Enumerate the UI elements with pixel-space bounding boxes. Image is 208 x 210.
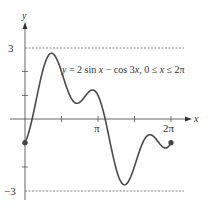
equation-part: − cos 3 (103, 64, 134, 75)
equation-part: , 0 ≤ (139, 64, 160, 75)
equation-part: = 2 sin (66, 64, 98, 75)
x-tick-label-2pi: 2π (163, 122, 175, 134)
y-max-label: 3 (8, 42, 14, 54)
y-min-label: −3 (4, 185, 16, 197)
y-axis-label: y (21, 10, 27, 21)
function-graph: y x 3 −3 π 2π y = 2 sin x − cos 3x, 0 ≤ … (0, 0, 208, 210)
start-point-marker (22, 140, 27, 145)
y-axis-arrow-icon (23, 22, 28, 29)
x-tick-label-pi: π (94, 122, 100, 134)
x-axis-arrow-icon (185, 117, 192, 122)
equation-part: ≤ 2π (164, 64, 185, 75)
x-axis-label: x (193, 113, 199, 124)
end-point-marker (168, 140, 173, 145)
equation-label: y = 2 sin x − cos 3x, 0 ≤ x ≤ 2π (61, 64, 185, 75)
